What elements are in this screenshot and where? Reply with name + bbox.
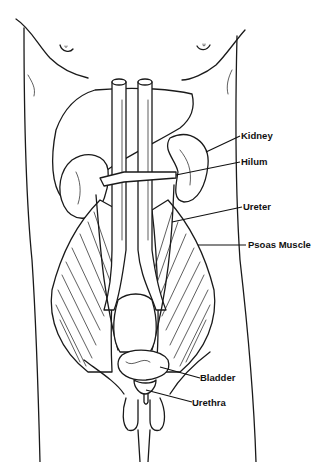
leader-ureter	[172, 207, 242, 222]
psoas-left	[51, 200, 118, 372]
torso-illustration	[0, 0, 324, 462]
pelvic-basin	[114, 294, 157, 352]
external-genitalia	[123, 398, 138, 431]
nipple-left	[60, 45, 73, 51]
torso-outline-right	[182, 30, 245, 80]
leader-kidney	[206, 136, 240, 152]
urethra	[144, 394, 148, 404]
label-bladder: Bladder	[200, 372, 235, 383]
label-kidney: Kidney	[241, 130, 273, 141]
anatomy-diagram: Kidney Hilum Ureter Psoas Muscle Bladder…	[0, 0, 324, 462]
label-psoas-muscle: Psoas Muscle	[248, 239, 311, 250]
label-ureter: Ureter	[243, 201, 271, 212]
torso-outline-left	[16, 19, 88, 78]
label-urethra: Urethra	[192, 397, 226, 408]
psoas-right	[152, 200, 215, 372]
label-hilum: Hilum	[241, 156, 267, 167]
bladder	[118, 350, 169, 380]
leader-urethra	[146, 390, 192, 402]
